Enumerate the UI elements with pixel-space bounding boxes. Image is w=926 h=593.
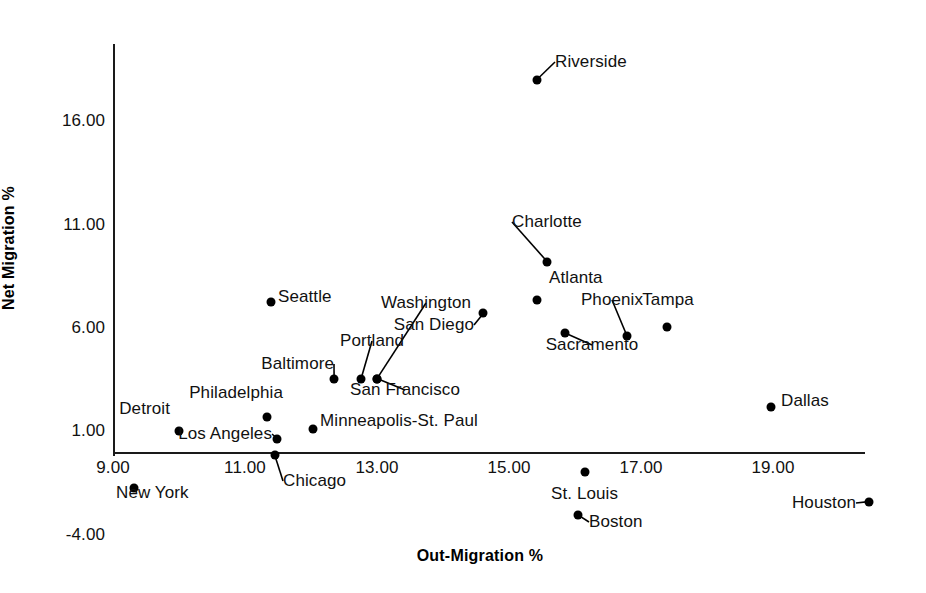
data-point[interactable] [574, 511, 583, 520]
x-axis-line [113, 452, 865, 454]
data-point[interactable] [662, 322, 671, 331]
data-point-label: Portland [340, 331, 404, 351]
y-tick-label: -4.00 [66, 525, 105, 545]
y-tick-label: 6.00 [72, 318, 106, 338]
data-point[interactable] [262, 412, 271, 421]
x-tick-label: 15.00 [487, 458, 530, 478]
data-point-label: San Diego [394, 315, 474, 335]
data-point-label: Sacramento [546, 335, 639, 355]
data-point-label: Seattle [278, 287, 332, 307]
x-tick-label: 9.00 [96, 458, 130, 478]
data-point-label: Dallas [781, 391, 829, 411]
data-point[interactable] [266, 298, 275, 307]
data-point-label: Philadelphia [189, 383, 283, 403]
y-axis-line [113, 44, 115, 456]
x-tick-label: 13.00 [355, 458, 398, 478]
y-tick-label: 1.00 [72, 421, 106, 441]
data-point[interactable] [543, 257, 552, 266]
y-tick-label: 11.00 [63, 215, 105, 235]
data-point[interactable] [532, 296, 541, 305]
data-point[interactable] [330, 374, 339, 383]
data-point-label: Detroit [119, 399, 170, 419]
data-point[interactable] [273, 434, 282, 443]
data-point-label: New York [116, 483, 189, 503]
data-point[interactable] [270, 451, 279, 460]
data-point-label: Tampa [642, 290, 694, 310]
data-point-label: Houston [792, 493, 856, 513]
data-point-label: Chicago [283, 471, 346, 491]
y-axis-title: Net Migration % [0, 186, 18, 310]
data-point-label: Washington [381, 293, 471, 313]
scatter-plot-figure: Net Migration % Out-Migration % -4.001.0… [0, 0, 926, 593]
data-point-label: Boston [589, 512, 643, 532]
x-tick-label: 19.00 [751, 458, 794, 478]
data-point[interactable] [532, 75, 541, 84]
data-point-label: San Francisco [350, 380, 460, 400]
x-tick-label: 17.00 [619, 458, 662, 478]
x-axis-title: Out-Migration % [417, 547, 544, 565]
data-point-label: Phoenix [581, 290, 643, 310]
data-point[interactable] [767, 402, 776, 411]
data-point-label: Riverside [555, 52, 627, 72]
data-point-label: Baltimore [261, 354, 334, 374]
data-point-label: St. Louis [551, 484, 618, 504]
data-point[interactable] [308, 425, 317, 434]
y-tick-label: 16.00 [62, 111, 105, 131]
data-point-label: Charlotte [512, 212, 582, 232]
data-point-label: Minneapolis-St. Paul [320, 411, 478, 431]
data-point[interactable] [864, 497, 873, 506]
data-point-label: Atlanta [549, 268, 603, 288]
data-point-label: Los Angeles [178, 424, 272, 444]
data-point[interactable] [580, 467, 589, 476]
data-point[interactable] [479, 309, 488, 318]
x-tick-label: 11.00 [224, 458, 266, 478]
